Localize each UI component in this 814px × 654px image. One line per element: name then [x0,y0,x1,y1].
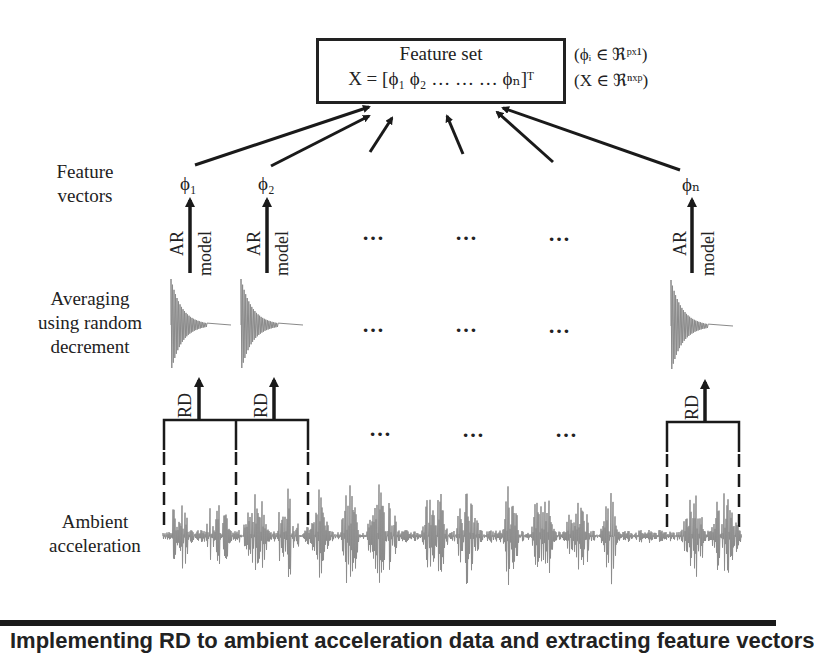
model-label-2: model [272,231,293,276]
phi-1-label: ϕ₁ [180,173,197,195]
rd-signatures [171,279,733,369]
x-dimension-annotation: (X ∈ ℜⁿˣᵖ) [574,70,648,91]
ambient-acceleration-label: Ambient acceleration [30,510,160,558]
window-dashed-lines [164,452,739,528]
ellipsis-ar-1: … [362,320,385,330]
ar-label-2: AR [244,231,265,256]
averaging-label: Averaging using random decrement [20,287,160,359]
ar-label-n: AR [670,231,691,256]
ar-label-1: AR [167,231,188,256]
phi-dimension-annotation: (ϕᵢ ∈ ℜᵖˣ¹) [574,44,647,65]
feature-set-equation: X = [ϕ₁ ϕ₂ … … … ϕₙ]ᵀ [319,67,563,90]
phi-2-label: ϕ₂ [258,173,275,195]
model-label-n: model [698,231,719,276]
ellipsis-feature-1: … [362,228,385,238]
rd-label-2: RD [251,393,272,418]
window-brackets [164,420,739,452]
rd-label-n: RD [682,395,703,420]
rd-label-1: RD [175,393,196,418]
phi-n-label: ϕₙ [682,173,700,196]
ellipsis-ar-3: … [548,321,571,331]
ellipsis-feature-3: … [548,229,571,239]
caption-divider [0,620,776,626]
ellipsis-rd-3: … [555,425,578,435]
figure-caption: Implementing RD to ambient acceleration … [10,628,814,654]
feature-arrows [195,107,680,170]
ellipsis-rd-2: … [462,425,485,435]
ellipsis-feature-2: … [455,228,478,238]
ar-model-arrows [190,200,692,273]
ellipsis-ar-2: … [455,320,478,330]
feature-set-box: Feature set X = [ϕ₁ ϕ₂ … … … ϕₙ]ᵀ [316,38,566,104]
feature-vectors-label: Feature vectors [30,160,140,208]
model-label-1: model [195,231,216,276]
ellipsis-rd-1: … [369,424,392,434]
feature-set-title: Feature set [319,43,563,65]
rd-arrows [199,380,705,421]
ambient-acceleration-signal [163,485,742,585]
